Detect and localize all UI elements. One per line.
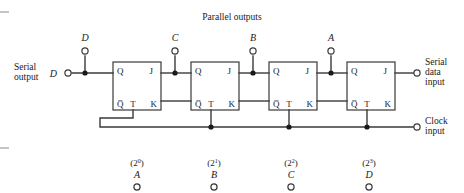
pin-qbar-3: Q̅ xyxy=(273,99,280,109)
figure-title: Parallel outputs xyxy=(202,12,262,22)
label-parallel-output-4: A xyxy=(327,32,335,43)
label-serial-output-pin: D xyxy=(49,68,58,79)
pin-t-4: T xyxy=(364,99,370,109)
bottom-output-label-1: A xyxy=(133,169,141,180)
terminal-clock-input[interactable] xyxy=(414,124,420,130)
pin-k-3: K xyxy=(307,99,314,109)
label-serial-input-line2: data xyxy=(425,67,442,77)
junction-dot-tap-3 xyxy=(250,70,255,75)
terminal-parallel-output-1[interactable] xyxy=(82,48,88,54)
junction-dot-clock-3 xyxy=(286,124,291,129)
terminal-bottom-output-2[interactable] xyxy=(211,184,217,190)
pin-t-2: T xyxy=(208,99,214,109)
pin-j-3: J xyxy=(305,66,309,76)
label-parallel-output-2: C xyxy=(172,32,179,43)
pin-j-1: J xyxy=(149,66,153,76)
junction-dot-tap-2 xyxy=(172,70,177,75)
label-serial-input-line3: input xyxy=(425,77,445,87)
terminal-serial-data-input[interactable] xyxy=(414,70,420,76)
label-parallel-output-3: B xyxy=(250,32,256,43)
shift-register-figure: Parallel outputs Q J Q̅ T K Q J Q̅ T K Q… xyxy=(0,0,464,193)
terminal-bottom-output-4[interactable] xyxy=(366,184,372,190)
pin-q-3: Q xyxy=(273,66,280,76)
weight-label-4: (23) xyxy=(362,158,376,168)
terminal-bottom-output-3[interactable] xyxy=(288,184,294,190)
label-parallel-output-1: D xyxy=(80,32,89,43)
pin-j-2: J xyxy=(227,66,231,76)
weight-label-1: (20) xyxy=(130,158,144,168)
pin-q-2: Q xyxy=(195,66,202,76)
pin-qbar-4: Q̅ xyxy=(351,99,358,109)
terminal-serial-output[interactable] xyxy=(65,70,71,76)
bottom-output-label-4: D xyxy=(364,169,373,180)
weight-label-2: (21) xyxy=(207,158,221,168)
terminal-parallel-output-4[interactable] xyxy=(328,48,334,54)
label-serial-output-line1: Serial xyxy=(14,62,37,72)
label-clock-line2: input xyxy=(425,126,445,136)
pin-j-4: J xyxy=(383,66,387,76)
pin-qbar-1: Q̅ xyxy=(117,99,124,109)
weight-label-3: (22) xyxy=(284,158,298,168)
bottom-output-label-2: B xyxy=(211,169,217,180)
label-clock-line1: Clock xyxy=(425,116,448,126)
pin-k-1: K xyxy=(151,99,158,109)
pin-k-4: K xyxy=(385,99,392,109)
terminal-parallel-output-3[interactable] xyxy=(250,48,256,54)
pin-q-4: Q xyxy=(351,66,358,76)
pin-q-1: Q xyxy=(117,66,124,76)
pin-t-3: T xyxy=(286,99,292,109)
junction-dot-tap-1 xyxy=(82,70,87,75)
junction-dot-clock-2 xyxy=(208,124,213,129)
pin-t-1: T xyxy=(130,99,136,109)
junction-dot-tap-4 xyxy=(328,70,333,75)
terminal-parallel-output-2[interactable] xyxy=(172,48,178,54)
pin-k-2: K xyxy=(229,99,236,109)
label-serial-output-line2: output xyxy=(14,72,39,82)
terminal-bottom-output-1[interactable] xyxy=(134,184,140,190)
label-serial-input-line1: Serial xyxy=(425,57,448,67)
junction-dot-clock-4 xyxy=(364,124,369,129)
bottom-output-label-3: C xyxy=(288,169,295,180)
pin-qbar-2: Q̅ xyxy=(195,99,202,109)
